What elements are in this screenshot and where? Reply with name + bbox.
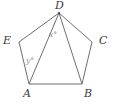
- vertex-label-A: A: [23, 88, 31, 99]
- vertex-label-E: E: [3, 35, 11, 46]
- pentagon-diagram-svg: [0, 0, 114, 109]
- vertex-label-B: B: [84, 88, 92, 99]
- vertex-label-C: C: [99, 35, 107, 46]
- geometry-figure: D E C A B x° y°: [0, 0, 114, 109]
- vertex-dot-D: [58, 12, 60, 14]
- vertex-label-D: D: [55, 0, 64, 11]
- angle-label-x: x°: [49, 31, 57, 39]
- pentagon-outline: [19, 13, 92, 84]
- angle-label-y: y°: [26, 57, 34, 65]
